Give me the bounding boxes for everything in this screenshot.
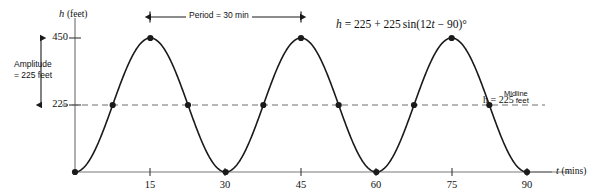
midline-units-text: feet xyxy=(516,96,529,105)
data-point-midline-crossing-t52.5 xyxy=(336,102,342,108)
equation-equals: = xyxy=(345,18,352,30)
data-point-midline-crossing-t37.5 xyxy=(260,102,266,108)
data-point-minimum-t60 xyxy=(373,169,379,175)
equation-variable-t: t xyxy=(432,18,435,30)
amplitude-annotation-line2: = 225 feet xyxy=(14,70,52,81)
data-point-maximum-t75 xyxy=(449,35,455,41)
period-annotation: Period = 30 min xyxy=(186,11,252,20)
x-tick-label-15: 15 xyxy=(136,180,164,191)
data-point-midline-crossing-t22.5 xyxy=(185,102,191,108)
x-tick-label-60: 60 xyxy=(362,180,390,191)
x-tick-label-90: 90 xyxy=(513,180,541,191)
x-tick-label-75: 75 xyxy=(438,180,466,191)
equation-midline-value: 225 xyxy=(354,18,371,30)
amplitude-annotation: Amplitude = 225 feet xyxy=(14,59,52,80)
data-point-minimum-t30 xyxy=(223,169,229,175)
data-point-maximum-t45 xyxy=(298,35,304,41)
data-point-markers xyxy=(72,35,530,175)
data-point-minimum-t90 xyxy=(524,169,530,175)
equation-plus: + xyxy=(374,18,381,30)
equation-annotation: h = 225 + 225sin(12t − 90)° xyxy=(336,19,467,31)
equation-degree-symbol: ° xyxy=(462,18,467,30)
x-axis-title: t (mins) xyxy=(556,166,586,177)
equation-amplitude-value: 225 xyxy=(384,18,401,30)
y-tick-label-225: 225 xyxy=(36,99,68,110)
equation-coefficient: 12 xyxy=(420,18,432,30)
y-axis-title: h (feet) xyxy=(59,9,87,20)
data-point-minimum-t0 xyxy=(72,169,78,175)
equation-sin: sin xyxy=(403,18,416,30)
amplitude-annotation-line1: Amplitude xyxy=(14,59,52,70)
equation-phase: 90 xyxy=(447,18,459,30)
x-tick-label-45: 45 xyxy=(287,180,315,191)
y-tick-label-450: 450 xyxy=(36,32,68,43)
data-point-midline-crossing-t67.5 xyxy=(411,102,417,108)
data-point-midline-crossing-t7.5 xyxy=(110,102,116,108)
x-tick-label-30: 30 xyxy=(211,180,239,191)
equation-h: h xyxy=(336,18,342,30)
midline-equation-text: h = 225 xyxy=(483,94,514,105)
sine-graph-figure: h (feet) t (mins) 450 225 15 30 45 60 75… xyxy=(0,0,597,196)
equation-minus: − xyxy=(438,18,445,30)
data-point-maximum-t15 xyxy=(147,35,153,41)
midline-label-equation: h = 225feet xyxy=(483,95,529,105)
